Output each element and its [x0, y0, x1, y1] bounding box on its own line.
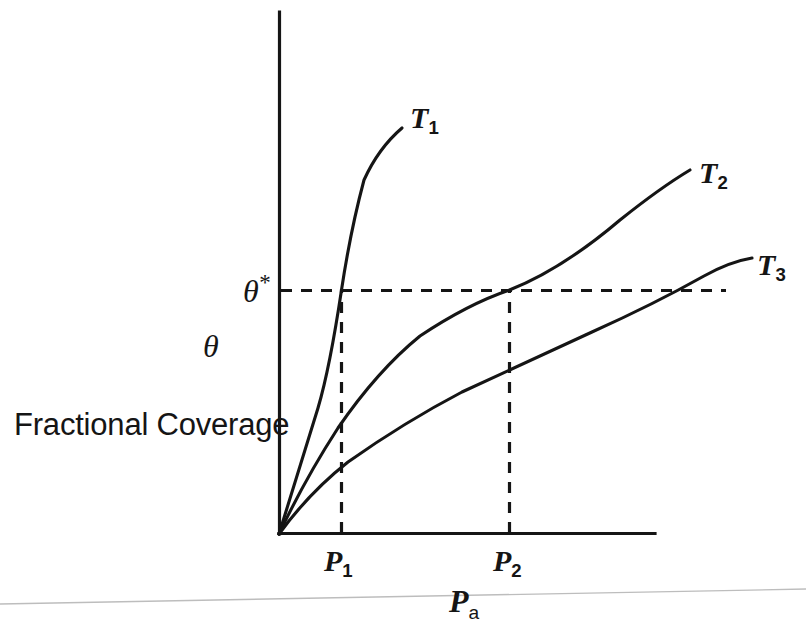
x-tick-p2-symbol: P: [493, 544, 511, 577]
x-tick-p1-subscript: 1: [342, 560, 352, 581]
theta-star-symbol: θ: [243, 273, 259, 309]
curve-t3: [279, 258, 752, 534]
y-axis-title: Fractional Coverage: [14, 409, 289, 440]
x-tick-label-p2: P2: [493, 546, 522, 576]
curve-label-t1-symbol: T: [410, 101, 428, 134]
curve-label-t1-subscript: 1: [429, 117, 439, 138]
curve-label-t3-subscript: 3: [776, 264, 786, 285]
curve-label-t2-symbol: T: [699, 156, 717, 189]
x-tick-label-p1: P1: [324, 546, 353, 576]
x-axis-title-subscript: a: [469, 602, 480, 623]
x-axis-title-symbol: P: [449, 583, 469, 619]
y-axis-theta-symbol: θ: [203, 330, 219, 362]
x-axis-title: Pa: [449, 585, 479, 617]
curve-label-t3-symbol: T: [757, 248, 775, 281]
curve-label-t3: T3: [757, 250, 786, 280]
isotherm-figure: T1 T2 T3 θ* θ Fractional Coverage P1 P2 …: [0, 0, 806, 635]
curve-label-t1: T1: [410, 103, 439, 133]
x-tick-p2-subscript: 2: [511, 560, 521, 581]
curve-label-t2: T2: [699, 158, 728, 188]
y-axis-theta-star-label: θ*: [243, 275, 270, 307]
x-tick-p1-symbol: P: [324, 544, 342, 577]
theta-star-superscript: *: [259, 269, 271, 295]
scan-artifact-line: [0, 589, 806, 604]
plot-canvas: [0, 0, 806, 635]
curve-label-t2-subscript: 2: [718, 172, 728, 193]
